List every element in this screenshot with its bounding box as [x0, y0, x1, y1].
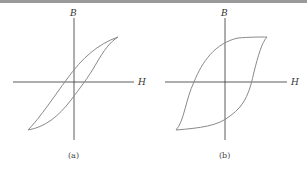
- panel-a-loop: [28, 37, 118, 130]
- panel-a-h-label: H: [137, 77, 146, 87]
- panel-b: B H (b): [165, 8, 299, 160]
- panel-b-b-label: B: [220, 8, 228, 18]
- panel-b-h-label: H: [290, 77, 299, 87]
- panel-b-caption: (b): [219, 151, 230, 160]
- panel-a-b-label: B: [69, 8, 77, 18]
- hysteresis-figure: B H (a) B H (b): [0, 0, 307, 171]
- panel-a: B H (a): [13, 8, 146, 160]
- panel-a-caption: (a): [68, 151, 79, 160]
- panel-b-loop: [176, 37, 267, 130]
- figure-svg: B H (a) B H (b): [0, 0, 307, 171]
